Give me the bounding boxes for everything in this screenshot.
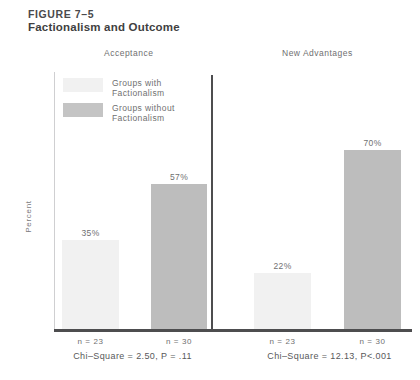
legend-swatch-without-factionalism [63, 103, 103, 117]
bar-n-label: n = 30 [143, 337, 215, 346]
y-axis-line [54, 72, 55, 330]
legend-label-without-factionalism: Groups without Factionalism [112, 103, 175, 123]
figure-title: Factionalism and Outcome [28, 21, 180, 33]
bar-new-advantages-groups-with-factionalism [254, 273, 311, 329]
figure-number: FIGURE 7–5 [28, 8, 94, 20]
y-axis-label: Percent [24, 187, 33, 247]
panel-header-new-advantages: New Advantages [282, 48, 353, 58]
bar-n-label: n = 23 [54, 337, 127, 346]
bar-acceptance-groups-with-factionalism [62, 240, 119, 329]
bar-value-label: 70% [344, 138, 401, 148]
bar-value-label: 35% [62, 228, 119, 238]
legend-item-with-factionalism: Groups with Factionalism [63, 78, 175, 98]
panel-header-acceptance: Acceptance [104, 48, 153, 58]
bar-n-label: n = 30 [336, 337, 409, 346]
figure-container: FIGURE 7–5 Factionalism and Outcome Acce… [0, 0, 420, 380]
legend: Groups with Factionalism Groups without … [63, 78, 175, 128]
x-axis-baseline [54, 329, 412, 332]
panel-divider-line [211, 75, 213, 330]
bar-value-label: 57% [151, 172, 207, 182]
bar-new-advantages-groups-without-factionalism [344, 150, 401, 329]
legend-label-with-factionalism: Groups with Factionalism [112, 78, 165, 98]
bar-n-label: n = 23 [246, 337, 319, 346]
legend-item-without-factionalism: Groups without Factionalism [63, 103, 175, 123]
panel-statistic-note: Chi–Square = 12.13, P<.001 [242, 351, 417, 361]
bar-acceptance-groups-without-factionalism [151, 184, 207, 329]
panel-statistic-note: Chi–Square = 2.50, P = .11 [50, 351, 215, 361]
legend-swatch-with-factionalism [63, 78, 103, 92]
bar-value-label: 22% [254, 261, 311, 271]
